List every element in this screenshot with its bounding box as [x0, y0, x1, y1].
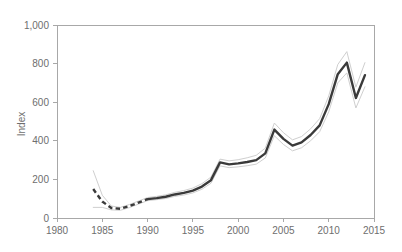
x-tick-label-2010: 2010	[318, 225, 341, 236]
line-chart: 0 200 400 600 800 1,000 Index 1980 1985 …	[0, 0, 402, 252]
y-tick-label-0: 0	[43, 213, 49, 224]
y-tick-label-400: 400	[32, 135, 49, 146]
y-tick-label-600: 600	[32, 97, 49, 108]
lower-bound-line	[93, 73, 365, 210]
upper-bound-line	[93, 52, 365, 208]
x-tick-label-2005: 2005	[272, 225, 295, 236]
x-tick-label-2015: 2015	[363, 225, 386, 236]
x-tick-label-1990: 1990	[136, 225, 159, 236]
y-axis-title: Index	[16, 112, 27, 136]
series-group	[93, 52, 365, 211]
plot-frame	[57, 25, 374, 218]
x-tick-label-1980: 1980	[46, 225, 69, 236]
x-tick-label-2000: 2000	[227, 225, 250, 236]
y-tick-label-800: 800	[32, 58, 49, 69]
y-tick-label-200: 200	[32, 174, 49, 185]
x-tick-label-1985: 1985	[91, 225, 114, 236]
x-axis-ticks	[57, 218, 374, 222]
x-axis-tick-labels: 1980 1985 1990 1995 2000 2005 2010 2015	[46, 225, 386, 236]
y-axis-tick-labels: 0 200 400 600 800 1,000	[24, 20, 49, 224]
x-tick-label-1995: 1995	[182, 225, 205, 236]
y-tick-label-1000: 1,000	[24, 20, 49, 31]
y-axis-ticks	[53, 25, 57, 218]
chart-container: 0 200 400 600 800 1,000 Index 1980 1985 …	[0, 0, 402, 252]
